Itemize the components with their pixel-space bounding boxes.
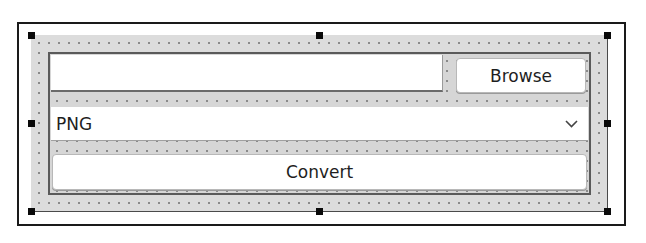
resize-handle-middle-left[interactable] [28, 120, 35, 127]
browse-button-label: Browse [490, 66, 552, 86]
resize-handle-bottom-right[interactable] [604, 208, 611, 215]
convert-button[interactable]: Convert [52, 154, 587, 190]
file-path-input[interactable] [51, 55, 443, 92]
resize-handle-top-left[interactable] [28, 32, 35, 39]
resize-handle-bottom-left[interactable] [28, 208, 35, 215]
format-combobox-value: PNG [56, 114, 92, 134]
resize-handle-top-middle[interactable] [316, 32, 323, 39]
chevron-down-icon [564, 119, 578, 129]
designer-canvas: Browse PNG Convert [0, 0, 646, 243]
convert-button-label: Convert [286, 162, 353, 182]
resize-handle-top-right[interactable] [604, 32, 611, 39]
resize-handle-middle-right[interactable] [604, 120, 611, 127]
format-combobox[interactable]: PNG [51, 107, 588, 141]
browse-button[interactable]: Browse [456, 58, 586, 93]
resize-handle-bottom-middle[interactable] [316, 208, 323, 215]
